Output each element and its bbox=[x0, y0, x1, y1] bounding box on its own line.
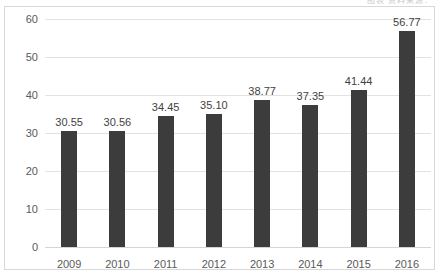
bar-value-label-2011: 34.45 bbox=[152, 101, 180, 113]
bar-2013[interactable] bbox=[254, 100, 270, 247]
gridline bbox=[45, 95, 431, 96]
x-axis-tick-label-2015: 2015 bbox=[346, 258, 370, 270]
bar-2009[interactable] bbox=[61, 131, 77, 247]
gridline bbox=[45, 209, 431, 210]
x-axis-tick-label-2014: 2014 bbox=[298, 258, 322, 270]
bar-value-label-2010: 30.56 bbox=[104, 116, 132, 128]
x-axis-tick-label-2010: 2010 bbox=[105, 258, 129, 270]
chart-frame: 010203040506030.55200930.56201034.452011… bbox=[4, 6, 435, 270]
gridline bbox=[45, 171, 431, 172]
bar-2010[interactable] bbox=[109, 131, 125, 247]
bar-value-label-2016: 56.77 bbox=[393, 16, 421, 28]
bar-value-label-2012: 35.10 bbox=[200, 99, 228, 111]
bar-2015[interactable] bbox=[351, 90, 367, 247]
bar-2012[interactable] bbox=[206, 114, 222, 247]
top-clipped-caption: 图表 资料来源： bbox=[367, 0, 433, 4]
y-axis-tick-label: 10 bbox=[26, 203, 38, 215]
y-axis-tick-label: 50 bbox=[26, 51, 38, 63]
gridline bbox=[45, 133, 431, 134]
x-axis-tick-label-2016: 2016 bbox=[395, 258, 419, 270]
bar-2016[interactable] bbox=[399, 31, 415, 247]
x-axis-tick-label-2009: 2009 bbox=[57, 258, 81, 270]
y-axis-tick-label: 20 bbox=[26, 165, 38, 177]
gridline bbox=[45, 247, 431, 248]
gridline bbox=[45, 19, 431, 20]
bar-2011[interactable] bbox=[158, 116, 174, 247]
gridline bbox=[45, 57, 431, 58]
x-axis-tick-label-2011: 2011 bbox=[154, 258, 178, 270]
x-axis-tick-label-2012: 2012 bbox=[202, 258, 226, 270]
bar-2014[interactable] bbox=[302, 105, 318, 247]
plot-area: 010203040506030.55200930.56201034.452011… bbox=[45, 19, 431, 247]
y-axis-tick-label: 0 bbox=[32, 241, 38, 253]
bar-value-label-2013: 38.77 bbox=[248, 85, 276, 97]
y-axis-tick-label: 40 bbox=[26, 89, 38, 101]
y-axis-tick-label: 60 bbox=[26, 13, 38, 25]
x-axis-tick-label-2013: 2013 bbox=[250, 258, 274, 270]
bar-value-label-2009: 30.55 bbox=[55, 116, 83, 128]
y-axis-tick-label: 30 bbox=[26, 127, 38, 139]
bar-value-label-2015: 41.44 bbox=[345, 75, 373, 87]
bar-value-label-2014: 37.35 bbox=[297, 90, 325, 102]
